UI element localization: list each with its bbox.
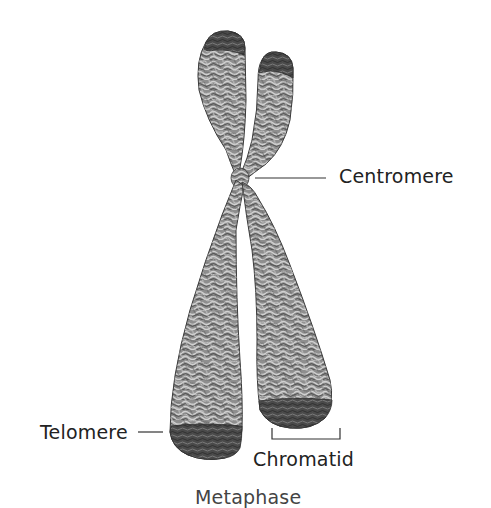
- telomere-cap-right-bottom: [259, 398, 332, 428]
- right-upper-arm: [240, 52, 293, 180]
- figure-caption-cutoff: Metaphase: [195, 488, 301, 507]
- left-upper-arm: [198, 31, 246, 176]
- centromere-label: Centromere: [339, 167, 454, 186]
- chromatid-bracket: [272, 428, 340, 439]
- left-lower-arm: [170, 180, 244, 459]
- telomere-cap-left-bottom: [170, 424, 242, 459]
- right-lower-arm: [242, 182, 332, 428]
- telomere-label: Telomere: [40, 423, 128, 442]
- chromatid-label: Chromatid: [253, 450, 354, 469]
